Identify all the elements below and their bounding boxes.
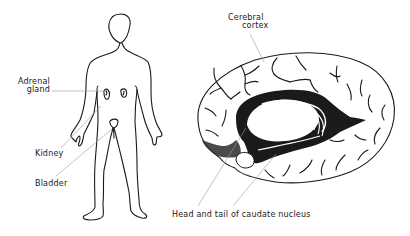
adrenal-gland-label: Adrenal gland bbox=[5, 78, 50, 94]
diagram-canvas bbox=[0, 0, 410, 236]
kidney-label: Kidney bbox=[35, 150, 63, 158]
caudate-nucleus-label: Head and tail of caudate nucleus bbox=[172, 211, 311, 219]
caudate-nucleus-shape bbox=[202, 90, 366, 168]
body-leader-lines bbox=[52, 91, 112, 176]
caudate-head-leader-line bbox=[198, 128, 246, 206]
human-body-outline bbox=[71, 14, 162, 220]
adrenal-gland-label-line2: gland bbox=[5, 86, 50, 94]
kidney-leader-line bbox=[61, 106, 101, 148]
cerebral-cortex-label-line2: cortex bbox=[225, 22, 285, 30]
cortex-leader-line bbox=[250, 34, 264, 62]
cerebral-cortex-label: Cerebral cortex bbox=[225, 14, 285, 30]
bladder-label: Bladder bbox=[35, 180, 67, 188]
